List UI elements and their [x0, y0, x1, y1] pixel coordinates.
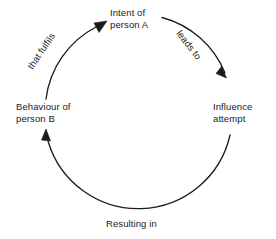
node-behaviour-line1: Behaviour of: [16, 101, 71, 113]
node-influence-line1: Influence: [213, 101, 252, 113]
node-label-influence: Influence attempt: [213, 101, 252, 124]
node-intent-line2: person A: [110, 19, 148, 31]
node-label-resulting: Resulting in: [106, 218, 157, 230]
arc-influence-to-behaviour: [48, 135, 230, 209]
cycle-diagram: Intent of person A Influence attempt Beh…: [0, 0, 276, 239]
node-influence-line2: attempt: [213, 113, 252, 125]
arrow-into-behaviour-icon: [42, 129, 51, 141]
arrow-into-intent-icon: [94, 21, 107, 33]
node-label-behaviour: Behaviour of person B: [16, 101, 71, 124]
node-label-intent: Intent of person A: [110, 7, 148, 30]
node-behaviour-line2: person B: [16, 113, 71, 125]
node-intent-line1: Intent of: [110, 7, 148, 19]
node-resulting-line1: Resulting in: [106, 218, 157, 230]
